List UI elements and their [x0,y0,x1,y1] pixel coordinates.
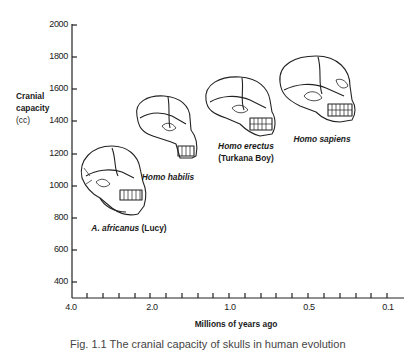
y-tick-label: 400 [34,276,68,286]
x-tick-label: 0.1 [376,302,400,312]
specimen-note: (Lucy) [142,222,167,233]
y-axis-label-line: capacity [16,102,49,114]
species-name: A. africanus [91,222,139,233]
skull-label-sapiens: Homo sapiens [287,133,357,144]
specimen-note: (Turkana Boy) [213,152,280,164]
skull-erectus-drawing [206,77,275,136]
y-tick-label: 1400 [34,115,68,125]
skull-label-africanus: A. africanus (Lucy) [89,222,168,233]
y-tick-label: 1200 [34,148,68,158]
figure-caption: Fig. 1.1 The cranial capacity of skulls … [70,338,346,350]
species-name: Homo erectus [213,140,280,152]
skull-label-habilis: Homo habilis [133,171,203,182]
x-axis-ticks [87,293,387,298]
y-tick-label: 1000 [34,180,68,190]
species-name: Homo sapiens [293,133,350,144]
x-axis-label: Millions of years ago [166,318,307,329]
y-axis-ticks [72,25,77,282]
y-tick-label: 2000 [34,19,68,29]
x-tick-label: 0.5 [297,302,321,312]
y-tick-label: 600 [34,244,68,254]
skull-label-erectus: Homo erectus (Turkana Boy) [213,140,280,164]
y-tick-label: 800 [34,212,68,222]
x-tick-label: 1.0 [218,302,242,312]
y-tick-label: 1800 [34,51,68,61]
skull-habilis-drawing [137,96,197,158]
skull-sapiens-drawing [280,56,355,122]
species-name: Homo habilis [142,171,194,182]
x-tick-label: 2.0 [140,302,164,312]
y-tick-label: 1600 [34,83,68,93]
x-tick-label: 4.0 [59,302,83,312]
